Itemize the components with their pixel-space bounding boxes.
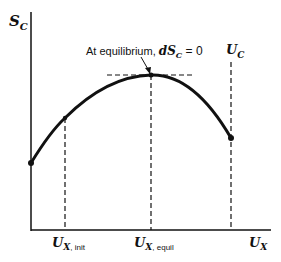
x-tick-equil: UX, equil xyxy=(134,235,174,250)
y-axis-label-sub: C xyxy=(20,21,28,32)
annotation-math-tail: = 0 xyxy=(182,44,202,58)
annotation-text: At equilibrium, xyxy=(86,45,159,57)
y-axis-label: SC xyxy=(9,12,28,30)
x-tick-equil-main: U xyxy=(134,235,145,250)
x-tick-init-subtext: , init xyxy=(70,243,85,252)
arrowhead-icon xyxy=(145,67,151,74)
init-point xyxy=(63,116,67,120)
start-point xyxy=(28,160,34,166)
diagram-canvas xyxy=(0,0,281,262)
entropy-curve xyxy=(31,75,231,163)
equilibrium-annotation: At equilibrium, dSC = 0 xyxy=(86,44,203,58)
equilibrium-point xyxy=(149,73,154,78)
x-tick-init-main: U xyxy=(52,235,63,250)
annotation-math-sub: C xyxy=(176,50,182,60)
uc-label: UC xyxy=(226,42,245,57)
x-tick-init: UX, init xyxy=(52,235,85,250)
uc-label-main: U xyxy=(226,42,237,57)
y-axis-label-main: S xyxy=(9,12,20,30)
x-tick-equil-subtext: , equil xyxy=(152,243,173,252)
end-point xyxy=(228,135,234,141)
x-axis-label-main: U xyxy=(249,235,260,250)
x-axis-label-sub: X xyxy=(260,242,267,252)
uc-label-sub: C xyxy=(237,50,244,60)
annotation-math-main: dS xyxy=(159,44,176,58)
x-axis-label: UX xyxy=(249,235,267,250)
